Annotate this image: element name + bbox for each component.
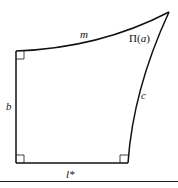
label-angle-pi-a: Π(a) [129, 33, 150, 44]
label-c: c [141, 90, 146, 101]
label-m: m [80, 29, 88, 40]
right-angle-marker-top-left [16, 51, 24, 59]
right-angle-marker-bottom-right [120, 155, 128, 163]
label-l-star: l* [66, 169, 75, 180]
right-angle-marker-bottom-left [16, 155, 24, 163]
quadrilateral-diagram [0, 0, 178, 188]
label-angle-arg: a [141, 32, 147, 44]
bottom-rule-divider [0, 181, 178, 182]
label-b: b [6, 101, 12, 112]
label-angle-symbol: Π [129, 32, 137, 44]
